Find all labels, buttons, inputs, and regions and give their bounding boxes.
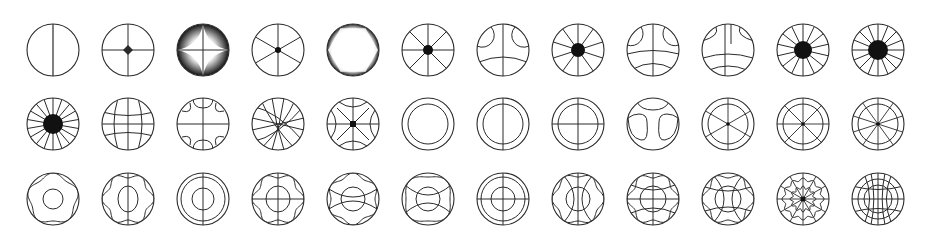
double-ring-cross-icon <box>550 96 606 152</box>
wave-web-cross-icon <box>625 171 681 227</box>
hexagon-wave-vertical-icon <box>100 171 156 227</box>
ring-eight-spoke-icon <box>775 96 831 152</box>
circle-diagonal-mesh-icon <box>250 96 306 152</box>
ring-six-spoke-icon <box>700 96 756 152</box>
icon-sheet <box>0 0 935 245</box>
sphere-grid-icon <box>850 171 906 227</box>
circle-four-point-star-icon <box>100 22 156 78</box>
pentagon-wave-ring-icon <box>25 171 81 227</box>
double-ring-vertical-icon <box>475 96 531 152</box>
circle-lobes-cross-icon <box>175 96 231 152</box>
circle-arcs-grid-icon <box>625 22 681 78</box>
wave-lens-icon <box>325 171 381 227</box>
ring-ten-spoke-icon <box>850 96 906 152</box>
triple-ring-vertical-icon <box>175 171 231 227</box>
wave-hourglass-icon <box>700 171 756 227</box>
circle-wave-icon <box>625 96 681 152</box>
circle-six-spoke-icon <box>250 22 306 78</box>
spider-web-icon <box>775 171 831 227</box>
circle-arcs-double-icon <box>700 22 756 78</box>
circle-eight-spoke-icon <box>400 22 456 78</box>
circle-ten-spoke-icon <box>550 22 606 78</box>
double-ring-icon <box>400 96 456 152</box>
hexagon-wave-cross-icon <box>250 171 306 227</box>
shaded-hexagon-circle-icon <box>325 22 381 78</box>
circle-vertical-line-icon <box>25 22 81 78</box>
wave-lens-vertical-icon <box>550 171 606 227</box>
shaded-sphere-cross-icon <box>175 22 231 78</box>
triple-ring-cross-icon <box>475 171 531 227</box>
circle-eighteen-spoke-icon <box>25 96 81 152</box>
circle-globe-grid-icon <box>100 96 156 152</box>
circle-sixteen-spoke-icon <box>850 22 906 78</box>
circle-hyperbola-star-icon <box>325 96 381 152</box>
circle-fourteen-spoke-icon <box>775 22 831 78</box>
square-wave-lens-icon <box>400 171 456 227</box>
circle-arcs-vertical-icon <box>475 22 531 78</box>
